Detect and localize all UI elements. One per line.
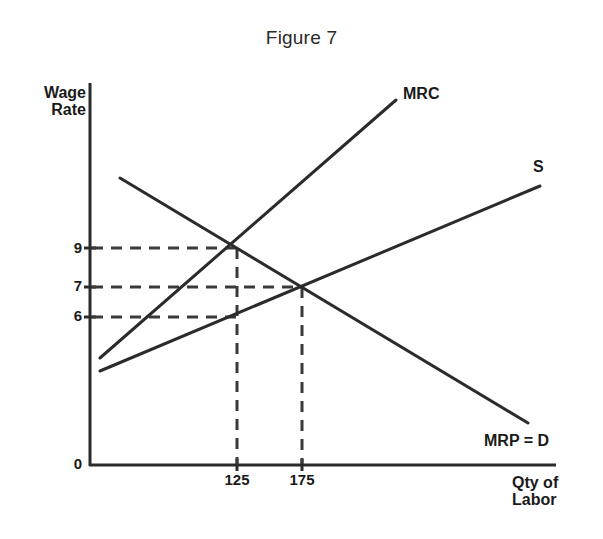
labor-market-chart bbox=[0, 0, 603, 539]
figure-container: Figure 7 Wage Rate Qty of Labor MRC S MR… bbox=[0, 0, 603, 539]
curve-supply bbox=[100, 186, 540, 371]
x-axis-title: Qty of Labor bbox=[512, 474, 602, 509]
curve-mrc bbox=[100, 100, 396, 358]
curve-mrp-demand bbox=[120, 178, 528, 423]
y-tick-label-6: 6 bbox=[60, 307, 82, 324]
curve-label-supply: S bbox=[533, 158, 544, 176]
x-tick-label-125: 125 bbox=[214, 471, 260, 488]
y-axis-title: Wage Rate bbox=[14, 84, 86, 119]
x-tick-label-175: 175 bbox=[279, 471, 325, 488]
curve-label-mrp-demand: MRP = D bbox=[484, 432, 549, 450]
curve-label-mrc: MRC bbox=[403, 85, 439, 103]
y-tick-label-9: 9 bbox=[60, 239, 82, 256]
y-tick-label-7: 7 bbox=[60, 277, 82, 294]
origin-label: 0 bbox=[62, 455, 82, 472]
